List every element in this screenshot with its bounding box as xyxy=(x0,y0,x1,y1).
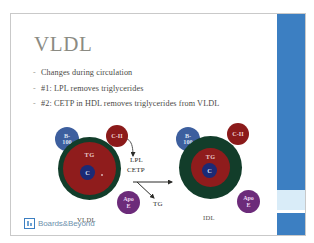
logo-text: Boards&Beyond xyxy=(38,219,95,228)
left-tg-label: TG xyxy=(85,151,95,158)
boards-beyond-mark-icon xyxy=(24,218,35,229)
list-item: - #2: CETP in HDL removes triglycerides … xyxy=(33,97,273,110)
left-core-label: C xyxy=(85,169,90,176)
tg-release-arrow xyxy=(137,182,154,198)
mark-bar-2 xyxy=(30,223,32,227)
right-core-label: C xyxy=(207,167,212,174)
bullet-text: #1: LPL removes triglycerides xyxy=(41,82,143,95)
bullet-text: #2: CETP in HDL removes triglycerides fr… xyxy=(41,97,219,110)
bullet-text: Changes during circulation xyxy=(41,66,132,79)
accent-bar-light-segment xyxy=(277,190,305,210)
right-particle-shell: TG C xyxy=(179,136,242,199)
slide-canvas: VLDL - Changes during circulation - #1: … xyxy=(10,13,306,236)
accent-bar-gap xyxy=(277,210,305,213)
right-particle-core: C xyxy=(202,163,217,178)
label-lpl: LPL xyxy=(130,156,143,164)
right-apo-e: Apo E xyxy=(237,190,260,213)
page-title: VLDL xyxy=(34,32,92,57)
bullet-list: - Changes during circulation - #1: LPL r… xyxy=(33,66,273,113)
brand-logo: Boards&Beyond xyxy=(24,218,95,229)
list-item: - Changes during circulation xyxy=(33,66,273,79)
left-particle-shell: TG C xyxy=(58,137,121,200)
bullet-marker: - xyxy=(33,82,41,95)
mark-bar-1 xyxy=(27,221,29,226)
left-apo-e: Apo E xyxy=(117,191,140,214)
apo-label-line1: C-II xyxy=(232,131,243,137)
right-tg-label: TG xyxy=(206,153,216,160)
left-particle-core: C xyxy=(80,165,95,180)
bullet-marker: - xyxy=(33,97,41,110)
label-tg-released: TG xyxy=(153,200,163,208)
right-apo-cii: C-II xyxy=(227,123,249,145)
apo-label-line1: C-II xyxy=(111,133,122,139)
accent-bar xyxy=(277,14,305,235)
list-item: - #1: LPL removes triglycerides xyxy=(33,82,273,95)
apo-label-line2: E xyxy=(246,202,250,208)
label-cetp: CETP xyxy=(127,166,145,174)
lipoprotein-diagram: LPL CETP TG B- 100 C-II TG C Apo E VLDL … xyxy=(11,110,279,222)
apo-label-line2: E xyxy=(126,203,130,209)
right-particle-caption: IDL xyxy=(203,214,215,221)
bullet-marker: - xyxy=(33,66,41,79)
